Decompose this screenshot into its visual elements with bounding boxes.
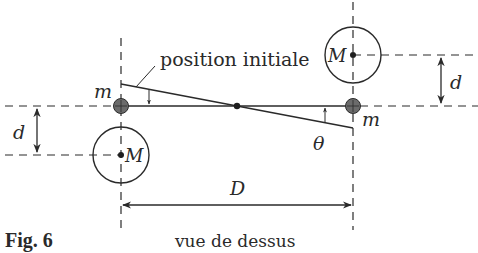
initial-position-label: position initiale xyxy=(160,48,310,70)
angle-theta-label: θ xyxy=(313,132,325,154)
torsion-balance-diagram: position initiale m m M M d d D θ Fig. 6… xyxy=(0,0,478,253)
large-mass-bottom-center xyxy=(118,152,124,158)
small-mass-right-label: m xyxy=(362,108,380,130)
view-label: vue de dessus xyxy=(174,231,295,251)
small-mass-left xyxy=(114,99,129,114)
distance-D-label: D xyxy=(229,177,245,199)
large-mass-top-label: M xyxy=(327,45,347,66)
distance-d-left-label: d xyxy=(13,121,25,143)
initial-position-leader xyxy=(136,66,155,87)
large-mass-bottom-label: M xyxy=(124,145,144,166)
distance-d-right-label: d xyxy=(450,71,462,93)
small-mass-left-label: m xyxy=(94,80,112,102)
large-mass-top-center xyxy=(350,52,356,58)
figure-caption: Fig. 6 xyxy=(5,229,53,252)
pivot-point xyxy=(234,103,240,109)
small-mass-right xyxy=(346,99,361,114)
